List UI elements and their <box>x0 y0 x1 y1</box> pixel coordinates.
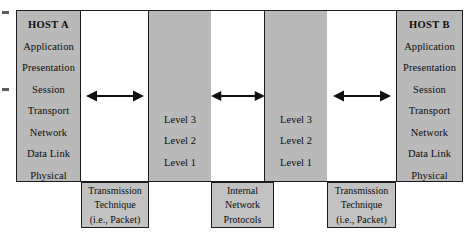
intermediate-node-right: Level 3 Level 2 Level 1 <box>264 10 328 182</box>
host-b-layer-transport: Transport <box>397 100 462 122</box>
host-a-layer-data-link: Data Link <box>17 143 80 165</box>
host-a-stack: HOST A Application Presentation Session … <box>16 10 81 182</box>
double-headed-arrow-icon <box>86 88 144 104</box>
caption-transmission-left-line-1: Transmission <box>82 184 148 199</box>
node-left-level-1: Level 1 <box>149 152 211 174</box>
host-a-layer-transport: Transport <box>17 100 80 122</box>
caption-transmission-left-line-3: (i.e., Packet) <box>82 213 148 228</box>
node-right-level-1: Level 1 <box>265 152 327 174</box>
node-right-level-2: Level 2 <box>265 130 327 152</box>
caption-internal-network: Internal Network Protocols <box>211 182 274 228</box>
caption-internal-network-line-1: Internal <box>212 184 273 199</box>
node-right-level-3: Level 3 <box>265 109 327 131</box>
caption-transmission-left: Transmission Technique (i.e., Packet) <box>81 182 149 228</box>
caption-transmission-right: Transmission Technique (i.e., Packet) <box>327 182 396 228</box>
host-b-layer-data-link: Data Link <box>397 143 462 165</box>
scan-artifact-tick-bottom <box>2 88 9 91</box>
host-b-layer-session: Session <box>397 79 462 101</box>
host-b-title: HOST B <box>397 14 462 36</box>
node-left-level-3: Level 3 <box>149 109 211 131</box>
host-b-layer-network: Network <box>397 122 462 144</box>
host-b-stack: HOST B Application Presentation Session … <box>396 10 463 182</box>
host-a-layer-session: Session <box>17 79 80 101</box>
arrow-cell-middle <box>211 10 265 182</box>
network-layers-diagram: HOST A Application Presentation Session … <box>0 0 475 244</box>
host-a-layer-physical: Physical <box>17 165 80 187</box>
caption-transmission-right-line-3: (i.e., Packet) <box>328 213 395 228</box>
host-b-layer-presentation: Presentation <box>397 57 462 79</box>
scan-artifact-tick-top <box>2 11 9 14</box>
caption-internal-network-line-3: Protocols <box>212 213 273 228</box>
arrow-cell-right <box>327 10 397 182</box>
double-headed-arrow-icon <box>211 88 265 104</box>
caption-transmission-left-line-2: Technique <box>82 198 148 213</box>
arrow-cell-left <box>81 10 149 182</box>
caption-transmission-right-line-2: Technique <box>328 198 395 213</box>
host-a-title: HOST A <box>17 14 80 36</box>
caption-internal-network-line-2: Network <box>212 198 273 213</box>
host-b-layer-application: Application <box>397 36 462 58</box>
host-b-layer-physical: Physical <box>397 165 462 187</box>
host-a-layer-network: Network <box>17 122 80 144</box>
host-a-layer-presentation: Presentation <box>17 57 80 79</box>
host-a-layer-application: Application <box>17 36 80 58</box>
intermediate-node-left: Level 3 Level 2 Level 1 <box>148 10 212 182</box>
caption-transmission-right-line-1: Transmission <box>328 184 395 199</box>
double-headed-arrow-icon <box>333 88 391 104</box>
node-left-level-2: Level 2 <box>149 130 211 152</box>
